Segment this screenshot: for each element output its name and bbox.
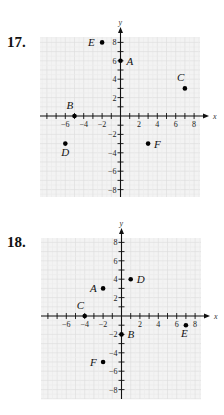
x-tick-label: −2 <box>98 120 107 129</box>
point-marker-icon <box>82 314 87 319</box>
x-axis-label: x <box>213 312 218 321</box>
y-tick-label: −6 <box>109 367 118 376</box>
y-tick-label: −2 <box>109 330 118 339</box>
y-tick-label: −4 <box>108 149 117 158</box>
x-axis-arrow-icon <box>204 314 210 319</box>
x-axis-arrow-icon <box>203 114 209 119</box>
x-tick-label: −2 <box>99 320 108 329</box>
y-tick-label: −2 <box>108 130 117 139</box>
y-tick-label: −4 <box>109 349 118 358</box>
y-tick-label: 4 <box>114 275 118 284</box>
y-tick-label: −8 <box>109 386 118 395</box>
point-marker-icon <box>183 86 188 91</box>
y-tick-label: 6 <box>114 257 118 266</box>
point-marker-icon <box>101 286 106 291</box>
x-tick-label: 2 <box>138 320 142 329</box>
point-marker-icon <box>128 277 133 282</box>
point-label: C <box>77 299 85 311</box>
y-tick-label: 8 <box>114 238 118 247</box>
point-label: F <box>89 356 97 368</box>
x-tick-label: −6 <box>62 320 71 329</box>
point-label: D <box>60 146 69 158</box>
y-tick-label: 4 <box>113 75 117 84</box>
point-marker-icon <box>101 360 106 365</box>
coordinate-plane-17: xy−6−4−224688642−2−4−6−8ABCDEF <box>0 0 224 205</box>
y-tick-label: 6 <box>113 57 117 66</box>
x-tick-label: 6 <box>174 120 178 129</box>
y-tick-label: 8 <box>113 38 117 47</box>
point-marker-icon <box>118 59 123 64</box>
x-tick-label: 6 <box>175 320 179 329</box>
point-marker-icon <box>119 332 124 337</box>
x-axis-label: x <box>212 112 217 121</box>
y-axis-arrow-icon <box>118 27 123 33</box>
point-label: B <box>67 99 74 111</box>
point-label: D <box>136 273 145 285</box>
point-label: E <box>180 327 188 339</box>
point-marker-icon <box>146 141 151 146</box>
x-tick-label: 8 <box>192 120 196 129</box>
x-tick-label: 2 <box>137 120 141 129</box>
point-marker-icon <box>72 114 77 119</box>
x-tick-label: −4 <box>79 120 88 129</box>
y-axis-label: y <box>118 18 123 27</box>
point-label: F <box>153 138 161 150</box>
point-label: B <box>128 328 135 340</box>
x-tick-label: 4 <box>156 320 160 329</box>
x-tick-label: −4 <box>80 320 89 329</box>
point-label: A <box>126 55 134 67</box>
y-tick-label: 2 <box>113 94 117 103</box>
y-tick-label: −8 <box>108 186 117 195</box>
y-axis-label: y <box>119 219 124 228</box>
point-label: E <box>87 36 95 48</box>
x-tick-label: 8 <box>193 320 197 329</box>
point-marker-icon <box>100 40 105 45</box>
x-tick-label: −6 <box>61 120 70 129</box>
point-label: A <box>89 282 97 294</box>
y-tick-label: −6 <box>108 167 117 176</box>
x-tick-label: 4 <box>155 120 159 129</box>
point-label: C <box>177 71 185 83</box>
coordinate-plane-18: xy−6−4−224688642−2−4−6−8ABCDEF <box>0 200 224 415</box>
y-tick-label: 2 <box>114 294 118 303</box>
y-axis-arrow-icon <box>119 228 124 234</box>
